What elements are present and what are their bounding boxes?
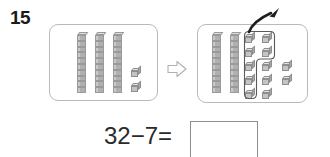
unit-cube-side [252,46,255,55]
ten-rod-segment [77,87,86,93]
worksheet-problem: 15 32−7= [0,0,330,157]
starting-quantity-panel [49,24,158,101]
equation-text: 32−7= [104,122,172,150]
unit-cube-icon [262,90,271,99]
unit-cube-face [282,65,289,71]
unit-cube-face [262,65,269,71]
unit-cube-icon [262,34,271,43]
unit-cube-icon [282,76,291,85]
unit-cube-face [262,79,269,85]
ten-rod-icon [77,35,86,93]
unit-cube-icon [131,68,140,77]
unit-cube-side [269,46,272,55]
unit-cube-icon [245,62,254,71]
unit-cube-face [262,93,269,99]
unit-cube-icon [245,48,254,57]
unit-cube-side [269,88,272,97]
unit-cube-side [269,60,272,69]
unit-cube-side [289,74,292,83]
curved-up-right-arrow-icon [243,5,295,35]
unit-cube-side [252,74,255,83]
unit-cube-icon [245,76,254,85]
ten-rod-icon [212,35,221,93]
unit-cube-icon [262,62,271,71]
unit-cube-icon [131,83,140,92]
unit-cube-icon [282,62,291,71]
unit-cube-face [245,79,252,85]
unit-cube-face [131,71,138,77]
unit-cube-icon [262,76,271,85]
unit-cube-side [138,66,141,75]
unit-cube-face [131,86,138,92]
unit-cube-face [282,79,289,85]
ten-rod-segment [230,87,239,93]
ten-rod-segment [212,87,221,93]
unit-cube-side [252,60,255,69]
unit-cube-side [252,88,255,97]
unit-cube-side [138,81,141,90]
unit-cube-face [245,51,252,57]
right-arrow-icon [166,58,188,80]
decomposed-quantity-panel [197,24,308,103]
unit-cube-icon [245,90,254,99]
unit-cube-side [269,74,272,83]
problem-number: 15 [10,7,30,29]
unit-cube-side [289,60,292,69]
unit-cube-face [245,93,252,99]
answer-input-box[interactable] [190,121,258,157]
unit-cube-face [262,51,269,57]
unit-cube-face [245,65,252,71]
ten-rod-icon [230,35,239,93]
unit-cube-face [245,37,252,43]
ten-rod-segment [95,87,104,93]
ten-rod-segment [113,87,122,93]
unit-cube-icon [245,34,254,43]
unit-cube-face [262,37,269,43]
ten-rod-icon [95,35,104,93]
unit-cube-icon [262,48,271,57]
ten-rod-icon [113,35,122,93]
